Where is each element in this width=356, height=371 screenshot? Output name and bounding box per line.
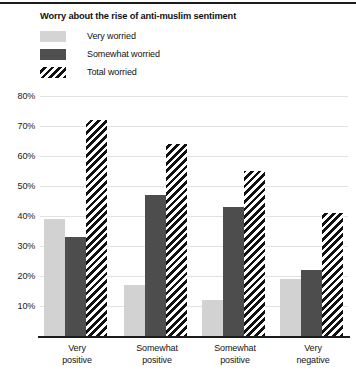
x-axis-category-line: negative — [272, 355, 354, 367]
bar — [44, 219, 65, 336]
chart-legend: Very worried Somewhat worried Total worr… — [40, 27, 350, 81]
bar — [202, 300, 223, 336]
legend-label-total-worried: Total worried — [87, 67, 137, 77]
bar — [322, 213, 343, 336]
chart-header: Worry about the rise of anti-muslim sent… — [40, 11, 350, 81]
y-axis-tick-label: 50% — [18, 181, 35, 191]
top-divider — [0, 2, 356, 4]
y-axis-tick-label: 10% — [18, 301, 35, 311]
x-axis-category-line: positive — [116, 355, 198, 367]
x-axis-category-line: Somewhat — [194, 343, 276, 355]
y-axis-tick-label: 60% — [18, 151, 35, 161]
dark-gray-swatch-icon — [40, 49, 66, 60]
legend-item-total-worried: Total worried — [40, 63, 350, 81]
bar — [301, 270, 322, 336]
x-axis-category-line: positive — [194, 355, 276, 367]
bar-group — [280, 213, 346, 336]
bar — [86, 120, 107, 336]
bar-group — [202, 171, 268, 336]
plot-area: 80%70%60%50%40%30%20%10% — [40, 98, 348, 338]
x-axis-category-label: Somewhatpositive — [116, 343, 198, 366]
bar — [280, 279, 301, 336]
bar — [244, 171, 265, 336]
bar-group — [44, 120, 110, 336]
x-axis-category-line: Very — [272, 343, 354, 355]
bar-group — [124, 144, 190, 336]
gridline: 80% — [40, 96, 348, 97]
y-axis-tick-label: 20% — [18, 271, 35, 281]
x-axis-category-line: positive — [36, 355, 118, 367]
bar — [166, 144, 187, 336]
legend-item-very-worried: Very worried — [40, 27, 350, 45]
bar — [223, 207, 244, 336]
y-axis-tick-label: 80% — [18, 91, 35, 101]
hatched-swatch-icon — [40, 67, 66, 78]
x-axis-category-line: Somewhat — [116, 343, 198, 355]
chart-title: Worry about the rise of anti-muslim sent… — [40, 11, 350, 22]
legend-label-very-worried: Very worried — [87, 31, 136, 41]
bar — [145, 195, 166, 336]
bar-chart: Worry about the rise of anti-muslim sent… — [0, 0, 356, 371]
legend-item-somewhat-worried: Somewhat worried — [40, 45, 350, 63]
y-axis-tick-label: 40% — [18, 211, 35, 221]
legend-label-somewhat-worried: Somewhat worried — [87, 49, 160, 59]
x-axis-category-line: Very — [36, 343, 118, 355]
bar — [124, 285, 145, 336]
x-axis-category-label: Verynegative — [272, 343, 354, 366]
x-axis-category-label: Verypositive — [36, 343, 118, 366]
y-axis-tick-label: 30% — [18, 241, 35, 251]
bar — [65, 237, 86, 336]
light-gray-swatch-icon — [40, 31, 66, 42]
y-axis-tick-label: 70% — [18, 121, 35, 131]
x-axis-line — [38, 336, 350, 338]
x-axis-category-label: Somewhatpositive — [194, 343, 276, 366]
